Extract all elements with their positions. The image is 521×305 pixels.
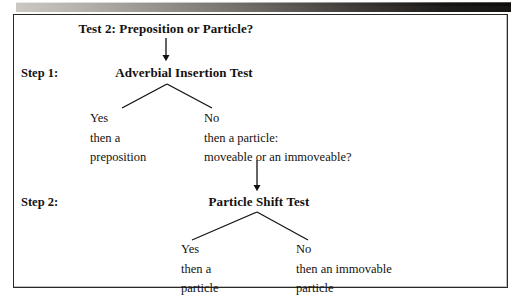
branch-step1-no-answer: No [204,112,352,125]
figure-title: Test 2: Preposition or Particle? [79,22,254,35]
branch-step2-yes-line3: particle [181,282,218,295]
node-adverbial-insertion-test: Adverbial Insertion Test [115,66,252,79]
branch-step1-yes-line3: preposition [90,151,146,164]
branch-step1-yes: Yes then a preposition [90,112,146,164]
branch-step1-yes-line2: then a [90,132,146,145]
branch-step2-yes-line2: then a [181,263,218,276]
branch-step2-no-answer: No [296,243,392,256]
step-label-1: Step 1: [21,67,58,80]
branch-step1-no: No then a particle: moveable or an immov… [204,112,352,164]
branch-step1-yes-answer: Yes [90,112,146,125]
step-label-2: Step 2: [21,196,58,209]
node-particle-shift-test: Particle Shift Test [209,195,310,208]
branch-step2-yes: Yes then a particle [181,243,218,295]
figure-page: Test 2: Preposition or Particle? Step 1:… [0,0,521,305]
branch-step2-no-line2: then an immovable [296,263,392,276]
branch-step1-no-line2: then a particle: [204,132,352,145]
scan-artifact-bar [16,3,511,12]
branch-step2-no-line3: particle [296,282,392,295]
branch-step2-yes-answer: Yes [181,243,218,256]
branch-step2-no: No then an immovable particle [296,243,392,295]
branch-step1-no-line3: moveable or an immoveable? [204,151,352,164]
